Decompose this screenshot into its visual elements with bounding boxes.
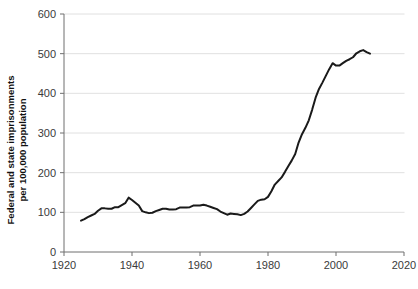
x-tick-label-1940: 1940 xyxy=(120,259,144,271)
y-tick-label-100: 100 xyxy=(38,206,56,218)
x-tick-label-1920: 1920 xyxy=(52,259,76,271)
y-tick-label-400: 400 xyxy=(38,87,56,99)
y-axis-title-line1: Federal and state imprisonments xyxy=(5,76,16,225)
chart-container: 0100200300400500600 19201940196019802000… xyxy=(0,0,418,289)
y-axis-title-line2: per 100,000 population xyxy=(17,98,28,201)
chart-background xyxy=(0,0,418,289)
y-tick-label-600: 600 xyxy=(38,8,56,20)
line-chart: 0100200300400500600 19201940196019802000… xyxy=(0,0,418,289)
y-tick-label-500: 500 xyxy=(38,48,56,60)
y-tick-label-300: 300 xyxy=(38,127,56,139)
x-tick-label-2000: 2000 xyxy=(324,259,348,271)
y-tick-label-0: 0 xyxy=(50,246,56,258)
x-tick-label-1960: 1960 xyxy=(188,259,212,271)
y-tick-label-200: 200 xyxy=(38,167,56,179)
x-tick-label-2020: 2020 xyxy=(392,259,416,271)
x-tick-label-1980: 1980 xyxy=(256,259,280,271)
